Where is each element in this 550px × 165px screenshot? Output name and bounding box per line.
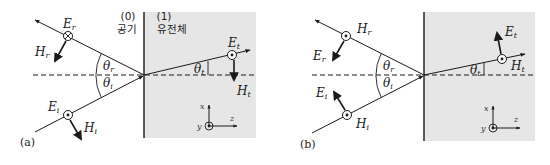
panel-b: θr θi θt Hr Er Hi Ei Ht Et	[300, 12, 535, 151]
dot-in-circle-icon	[228, 51, 237, 60]
dot-in-circle-icon	[343, 111, 352, 120]
region0-name: 공기	[117, 23, 137, 35]
H-i-label: Hi	[355, 117, 369, 132]
dot-in-circle-icon	[498, 55, 507, 64]
theta-r-label: θr	[383, 59, 395, 74]
axis-y-label: y	[196, 122, 202, 131]
E-i-label: Ei	[47, 100, 60, 115]
region1-name: 유전체	[157, 23, 187, 35]
E-r-label: Er	[312, 49, 327, 64]
H-i-vector	[70, 120, 81, 139]
H-r-vector	[55, 41, 66, 61]
oblique-incidence-figure: (0) 공기 (1) 유전체 θr θi θt Er Hr Ei Hi	[0, 0, 550, 165]
dot-in-circle-icon	[342, 32, 351, 41]
axis-x-label: x	[484, 104, 489, 113]
E-i-label: Ei	[315, 86, 328, 101]
panel-caption-a: (a)	[20, 136, 35, 149]
H-i-label: Hi	[83, 121, 97, 136]
theta-r-label: θr	[103, 59, 115, 74]
E-i-vector	[334, 92, 345, 110]
axis-x-label: x	[200, 102, 205, 111]
theta-i-label: θi	[383, 76, 393, 91]
axis-y-label: y	[480, 124, 486, 133]
H-r-label: Hr	[34, 45, 50, 60]
E-r-vector	[333, 41, 344, 60]
region1-index: (1)	[157, 10, 172, 22]
theta-i-label: θi	[103, 76, 113, 91]
H-r-label: Hr	[356, 22, 372, 37]
dot-in-circle-icon	[64, 111, 73, 120]
E-r-label: Er	[62, 17, 77, 32]
panel-a: (0) 공기 (1) 유전체 θr θi θt Er Hr Ei Hi	[20, 10, 256, 149]
panel-caption-b: (b)	[300, 138, 316, 151]
region0-index: (0)	[121, 10, 136, 22]
axis-z-label: z	[229, 114, 235, 123]
cross-in-circle-icon	[64, 32, 73, 41]
axis-z-label: z	[513, 115, 519, 124]
